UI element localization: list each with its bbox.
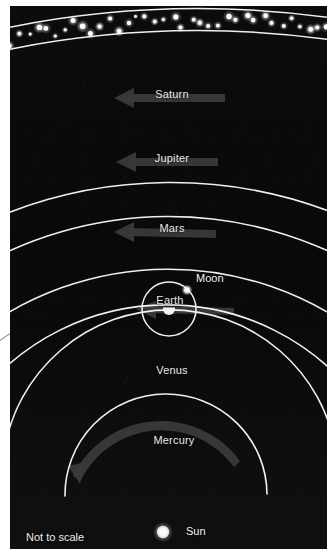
asteroid-dot [315, 25, 319, 29]
orbit-label-saturn: Saturn [155, 88, 189, 100]
asteroid-dot [206, 24, 210, 28]
asteroid-dot [233, 18, 237, 22]
asteroid-dot [88, 31, 93, 36]
asteroid-dot [290, 17, 293, 20]
orbit-label-venus: Venus [156, 364, 188, 376]
asteroid-dot [178, 25, 182, 29]
orbit-label-mars: Mars [159, 222, 184, 234]
asteroid-dot [64, 29, 67, 32]
asteroid-dot [263, 13, 268, 18]
asteroid-dot [198, 21, 202, 25]
solar-system-figure: Saturn Jupiter Mars Moon Earth Venus Mer… [0, 0, 333, 549]
asteroid-dot [134, 15, 137, 18]
asteroid-dot [108, 16, 112, 20]
caption-not-to-scale: Not to scale [26, 531, 84, 543]
asteroid-dot [173, 14, 178, 19]
orbit-label-earth: Earth [156, 294, 183, 306]
asteroid-dot [44, 26, 49, 31]
orbit-label-jupiter: Jupiter [155, 152, 189, 164]
sky-panel: Saturn Jupiter Mars Moon Earth Venus Mer… [10, 6, 327, 549]
asteroid-dot [282, 24, 286, 28]
label-moon: Moon [196, 272, 224, 284]
arrow-mercury [68, 421, 240, 484]
orbit-arc-earth [10, 305, 327, 392]
asteroid-dot [298, 25, 301, 28]
asteroid-dot [54, 34, 57, 37]
asteroid-dot [29, 33, 32, 36]
asteroid-dot [71, 18, 76, 23]
earth-body [163, 308, 175, 316]
asteroid-dot [308, 27, 313, 32]
asteroid-dot [80, 24, 86, 30]
asteroid-dot [270, 21, 274, 25]
asteroid-dot [251, 18, 256, 23]
asteroid-dot [127, 21, 131, 25]
asteroid-dot [18, 32, 22, 36]
asteroid-dot [162, 18, 165, 21]
sun-body [153, 522, 173, 542]
asteroid-dot [98, 24, 102, 28]
asteroid-belt [10, 9, 327, 58]
asteroid-dot [153, 20, 157, 24]
asteroid-dot [216, 24, 220, 28]
orbit-label-mercury: Mercury [153, 434, 194, 446]
asteroid-dot [117, 29, 122, 34]
asteroid-dot [142, 14, 146, 18]
label-sun: Sun [186, 525, 206, 537]
